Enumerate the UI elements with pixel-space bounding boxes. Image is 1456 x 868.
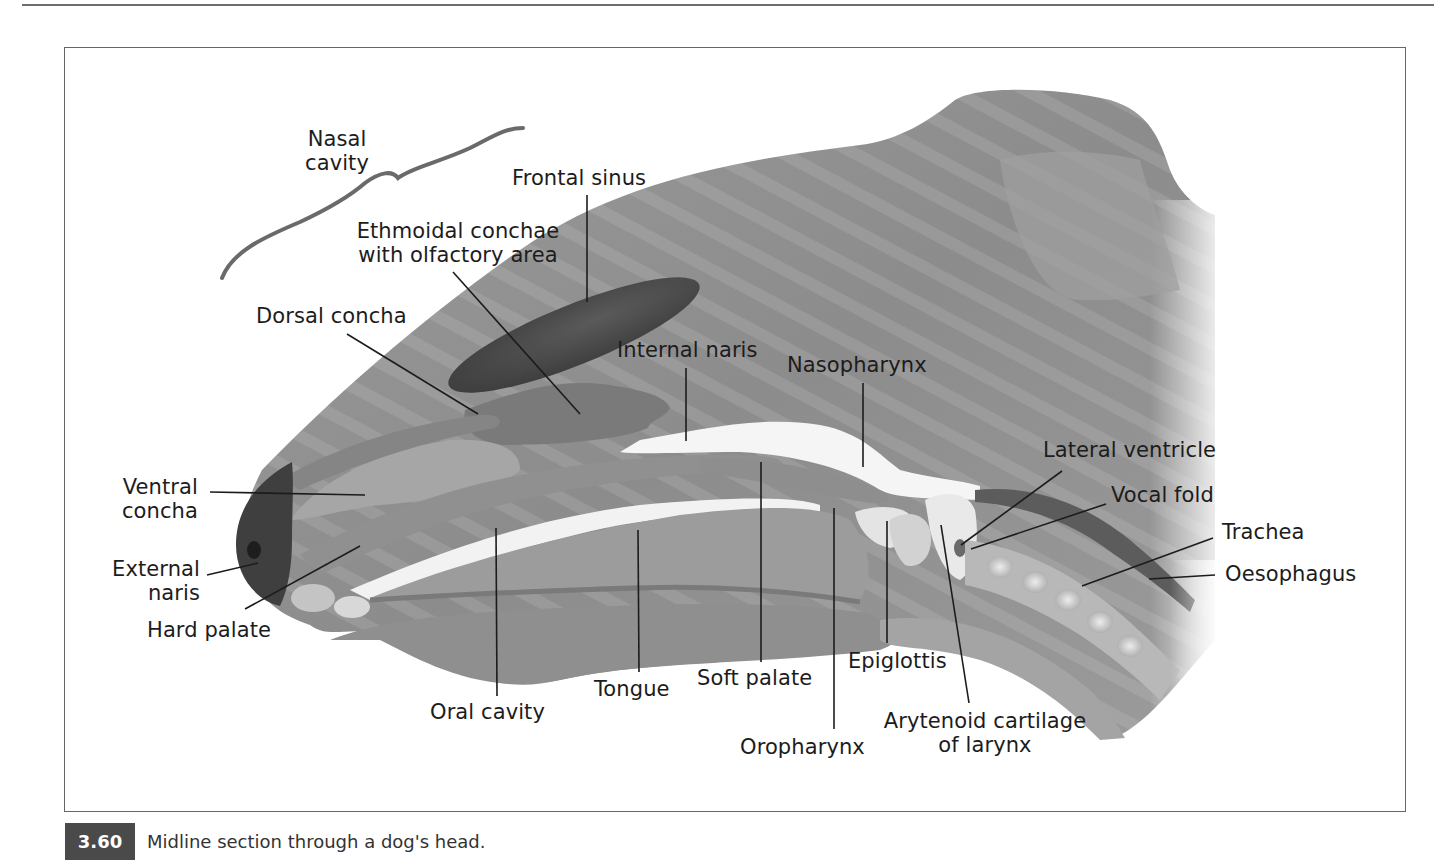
dog-head-midline-illustration bbox=[0, 0, 1456, 868]
label-dorsal-concha: Dorsal concha bbox=[256, 304, 407, 328]
label-arytenoid-cartilage: Arytenoid cartilage of larynx bbox=[873, 709, 1097, 757]
figure-caption: 3.60 Midline section through a dog's hea… bbox=[65, 823, 485, 860]
label-vocal-fold: Vocal fold bbox=[1111, 483, 1214, 507]
label-epiglottis: Epiglottis bbox=[848, 649, 947, 673]
figure-caption-text: Midline section through a dog's head. bbox=[147, 831, 485, 852]
label-oral-cavity: Oral cavity bbox=[430, 700, 545, 724]
external-naris-opening bbox=[247, 541, 261, 559]
label-nasal-cavity: Nasal cavity bbox=[292, 127, 382, 175]
label-lateral-ventricle: Lateral ventricle bbox=[1043, 438, 1216, 462]
oral-cavity-line bbox=[496, 528, 497, 696]
label-oesophagus: Oesophagus bbox=[1225, 562, 1356, 586]
label-external-naris: External naris bbox=[100, 557, 200, 605]
upper-lip bbox=[291, 584, 335, 612]
lower-lip bbox=[334, 596, 370, 618]
figure-number-badge: 3.60 bbox=[65, 823, 135, 860]
label-ethmoidal-conchae: Ethmoidal conchae with olfactory area bbox=[340, 219, 576, 267]
label-nasopharynx: Nasopharynx bbox=[787, 353, 927, 377]
label-ventral-concha: Ventral concha bbox=[108, 475, 198, 523]
label-trachea: Trachea bbox=[1222, 520, 1305, 544]
tongue-line bbox=[638, 530, 639, 672]
nose-tip-shape bbox=[236, 462, 293, 606]
label-tongue: Tongue bbox=[594, 677, 670, 701]
label-hard-palate: Hard palate bbox=[147, 618, 271, 642]
label-oropharynx: Oropharynx bbox=[740, 735, 865, 759]
label-internal-naris: Internal naris bbox=[617, 338, 758, 362]
label-frontal-sinus: Frontal sinus bbox=[512, 166, 646, 190]
label-soft-palate: Soft palate bbox=[697, 666, 812, 690]
